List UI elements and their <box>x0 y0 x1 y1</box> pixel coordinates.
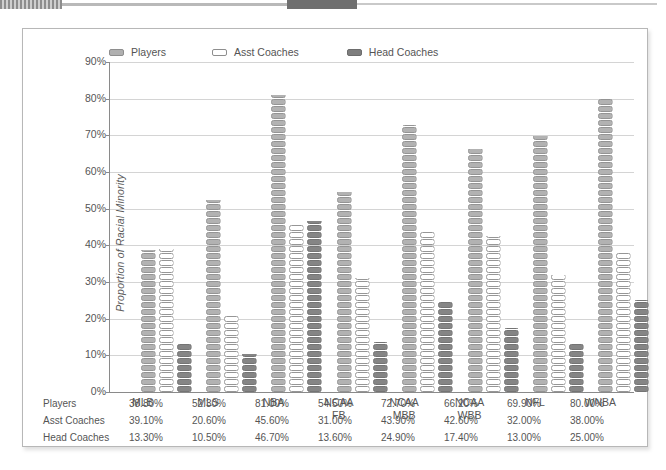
table-cell-value: 32.00% <box>507 412 570 429</box>
bar-segment <box>438 337 453 343</box>
bar-segment <box>307 295 322 301</box>
bar-segment <box>271 204 286 210</box>
bar-segment <box>354 379 369 385</box>
bar-asst[interactable] <box>616 253 631 392</box>
y-axis-tick-mark <box>106 245 110 246</box>
bar-players[interactable] <box>271 95 286 392</box>
bar-segment <box>372 379 387 385</box>
bar-segment <box>467 372 482 378</box>
bar-segment <box>532 267 547 273</box>
bar-segment <box>485 236 500 238</box>
bar-segment <box>598 141 613 147</box>
bar-segment <box>616 386 631 392</box>
bar-segment <box>634 379 649 385</box>
bar-segment <box>271 267 286 273</box>
bar-segment <box>336 225 351 231</box>
bar-asst[interactable] <box>550 275 565 392</box>
bar-segment <box>307 253 322 259</box>
bar-segment <box>402 274 417 280</box>
bar-segment <box>568 365 583 371</box>
bar-head[interactable] <box>503 328 518 392</box>
bar-segment <box>176 344 191 350</box>
bar-segment <box>336 365 351 371</box>
bar-segment <box>206 232 221 238</box>
bar-segment <box>206 281 221 287</box>
bar-asst[interactable] <box>158 249 173 392</box>
bar-segment <box>532 295 547 301</box>
bar-players[interactable] <box>532 136 547 392</box>
bar-segment <box>420 386 435 392</box>
plot-inner: 90%80%70%60%50%40%30%20%10%0% <box>109 62 634 393</box>
bar-segment <box>206 218 221 224</box>
bar-segment <box>402 260 417 266</box>
bar-segment <box>467 358 482 364</box>
bar-segment <box>289 281 304 287</box>
bar-segment <box>307 274 322 280</box>
bar-head[interactable] <box>372 342 387 392</box>
bar-head[interactable] <box>568 344 583 392</box>
y-axis-tick-mark <box>106 392 110 393</box>
bar-segment <box>271 218 286 224</box>
bar-segment <box>307 344 322 350</box>
bar-segment <box>402 190 417 196</box>
bar-segment <box>140 344 155 350</box>
bar-head[interactable] <box>438 301 453 392</box>
bar-segment <box>402 204 417 210</box>
bar-segment <box>616 309 631 315</box>
scan-artifact-segment <box>287 0 357 9</box>
bar-segment <box>271 106 286 112</box>
bar-players[interactable] <box>402 125 417 392</box>
bar-segment <box>402 246 417 252</box>
bar-segment <box>336 281 351 287</box>
bar-segment <box>206 351 221 357</box>
bar-group <box>133 62 198 392</box>
bar-segment <box>485 253 500 259</box>
bar-segment <box>336 197 351 203</box>
bar-segment <box>289 351 304 357</box>
bar-players[interactable] <box>598 99 613 392</box>
bar-segment <box>467 190 482 196</box>
bar-asst[interactable] <box>224 316 239 392</box>
bar-players[interactable] <box>140 250 155 392</box>
bar-head[interactable] <box>307 221 322 392</box>
legend-item-asst-coaches[interactable]: Asst Coaches <box>212 46 299 58</box>
bar-segment <box>289 372 304 378</box>
bar-segment <box>616 253 631 259</box>
bar-asst[interactable] <box>420 231 435 392</box>
bar-segment <box>550 351 565 357</box>
bar-segment <box>503 330 518 336</box>
bar-segment <box>206 358 221 364</box>
bar-asst[interactable] <box>289 225 304 392</box>
bar-segment <box>206 204 221 210</box>
bar-segment <box>354 309 369 315</box>
table-cell-value: 69.90% <box>507 395 570 412</box>
bar-segment <box>568 379 583 385</box>
bar-segment <box>242 365 257 371</box>
bar-players[interactable] <box>467 149 482 392</box>
bar-group <box>264 62 329 392</box>
legend-item-players[interactable]: Players <box>109 46 166 58</box>
bar-segment <box>402 358 417 364</box>
bar-players[interactable] <box>206 200 221 392</box>
bar-players[interactable] <box>336 192 351 392</box>
bar-segment <box>532 253 547 259</box>
bar-head[interactable] <box>242 354 257 393</box>
legend-item-head-coaches[interactable]: Head Coaches <box>347 46 438 58</box>
bar-segment <box>532 141 547 147</box>
bar-head[interactable] <box>176 343 191 392</box>
bar-segment <box>289 302 304 308</box>
bar-segment <box>140 267 155 273</box>
bar-segment <box>503 372 518 378</box>
bar-segment <box>224 386 239 392</box>
bar-segment <box>402 169 417 175</box>
y-axis-tick-label: 30% <box>66 275 106 287</box>
bar-segment <box>271 239 286 245</box>
bar-segment <box>616 316 631 322</box>
bar-asst[interactable] <box>354 278 369 392</box>
bar-segment <box>550 281 565 287</box>
bar-segment <box>420 281 435 287</box>
bar-asst[interactable] <box>485 236 500 392</box>
bar-segment <box>532 323 547 329</box>
bar-head[interactable] <box>634 300 649 392</box>
bar-segment <box>271 358 286 364</box>
